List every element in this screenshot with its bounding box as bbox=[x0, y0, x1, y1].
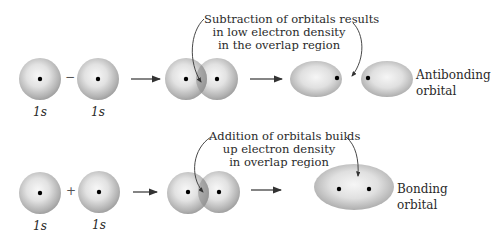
annotation-line: in overlap region bbox=[209, 156, 349, 169]
bottom-1s-orbital-b bbox=[78, 171, 120, 213]
orbital-label-text: 1s bbox=[33, 219, 47, 233]
bottom-overlapping-orbitals bbox=[167, 171, 240, 214]
nucleus-dot bbox=[38, 77, 42, 81]
annotation-line: in the overlap region bbox=[204, 39, 354, 52]
antibonding-lobe-right bbox=[361, 61, 413, 97]
label-line: Bonding bbox=[397, 181, 448, 197]
bottom-1s-label-a: 1s bbox=[33, 220, 47, 232]
bonding-orbital bbox=[314, 164, 394, 210]
orbital-label-text: 1s bbox=[91, 105, 105, 119]
plus-operator: + bbox=[66, 185, 76, 197]
bonding-label: Bonding orbital bbox=[397, 181, 448, 213]
subtraction-annotation: Subtraction of orbitals results in low e… bbox=[204, 13, 354, 52]
bottom-1s-orbital-a bbox=[19, 172, 61, 214]
label-line: orbital bbox=[416, 83, 491, 99]
label-line: Antibonding bbox=[416, 67, 491, 83]
top-1s-label-a: 1s bbox=[33, 106, 47, 118]
top-1s-label-b: 1s bbox=[91, 106, 105, 118]
label-line: orbital bbox=[397, 197, 448, 213]
nucleus-dot bbox=[96, 77, 100, 81]
top-1s-orbital-b bbox=[77, 58, 119, 100]
bottom-1s-label-b: 1s bbox=[92, 219, 106, 231]
top-1s-orbital-a bbox=[19, 58, 61, 100]
top-overlapping-orbitals bbox=[165, 58, 238, 100]
antibonding-lobe-left bbox=[290, 61, 342, 97]
orbital-label-text: 1s bbox=[92, 218, 106, 232]
minus-operator: − bbox=[65, 71, 75, 83]
orbital-diagram: − 1s 1s Subtraction of orbitals results … bbox=[0, 0, 491, 247]
addition-annotation: Addition of orbitals builds up electron … bbox=[209, 130, 349, 169]
antibonding-label: Antibonding orbital bbox=[416, 67, 491, 99]
orbital-label-text: 1s bbox=[33, 105, 47, 119]
